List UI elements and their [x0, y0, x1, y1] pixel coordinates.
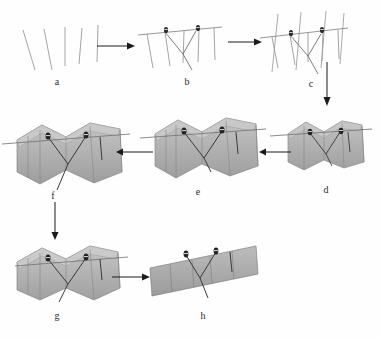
arrow-c-to-d	[321, 62, 333, 108]
panel-label-d: d	[319, 184, 333, 195]
slab-body	[288, 121, 364, 170]
panel-label-a: a	[50, 76, 64, 87]
slab-body	[17, 123, 122, 184]
datum-line	[138, 27, 222, 35]
workflow-figure: a b	[0, 0, 380, 338]
panel-h	[148, 242, 262, 310]
arrow-f-to-g	[49, 202, 61, 242]
well-traces	[147, 28, 215, 68]
arrow-d-to-e	[260, 146, 292, 158]
panel-b	[136, 18, 226, 78]
arrow-b-to-c	[228, 36, 264, 48]
panel-label-g: g	[50, 310, 64, 321]
slab-body	[155, 118, 258, 178]
arrow-g-to-h	[112, 271, 152, 283]
panel-e	[152, 110, 268, 196]
panel-c	[258, 10, 352, 78]
well-log-lines	[23, 25, 98, 70]
panel-f	[14, 114, 132, 202]
panel-label-e: e	[191, 186, 205, 197]
fault-trace	[290, 34, 321, 74]
panel-a	[18, 22, 104, 78]
arrow-e-to-f	[116, 146, 154, 158]
datum-line	[260, 28, 348, 38]
slab-body	[17, 246, 120, 300]
panel-label-b: b	[180, 76, 194, 87]
panel-label-c: c	[304, 78, 318, 89]
panel-label-h: h	[196, 310, 210, 321]
panel-d	[284, 112, 374, 184]
arrow-a-to-b	[97, 40, 137, 52]
panel-label-f: f	[46, 190, 60, 201]
